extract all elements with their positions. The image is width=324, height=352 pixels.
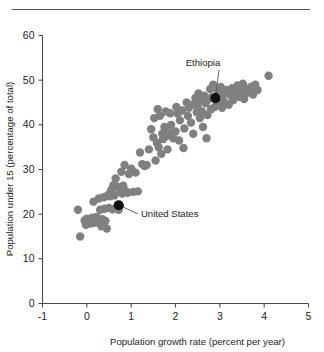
data-point [151, 156, 159, 164]
data-point [187, 118, 195, 126]
data-point [179, 144, 187, 152]
data-point [253, 86, 261, 94]
data-point [101, 217, 109, 225]
figure-scatter-plot: -10123450102030405060Population growth r… [0, 0, 324, 352]
data-point [131, 168, 139, 176]
data-point [134, 187, 142, 195]
annotation-label-0: Ethiopia [186, 57, 221, 68]
data-point [202, 134, 210, 142]
data-point [142, 161, 150, 169]
x-tick-label-1: 0 [84, 310, 90, 322]
x-tick-label-0: -1 [38, 310, 47, 322]
data-point [136, 148, 144, 156]
annotation-highlight-point-1 [114, 200, 124, 210]
y-tick-label-0: 0 [29, 297, 35, 309]
y-axis-title: Population under 15 (percentage of total… [4, 82, 15, 256]
data-point [180, 124, 188, 132]
x-tick-label-3: 2 [173, 310, 179, 322]
y-tick-label-3: 30 [23, 163, 35, 175]
data-point [76, 232, 84, 240]
scatter-plot-canvas: -10123450102030405060Population growth r… [0, 0, 324, 352]
data-point [147, 125, 155, 133]
y-tick-label-1: 10 [23, 252, 35, 264]
y-tick-label-2: 20 [23, 208, 35, 220]
annotation-label-1: United States [141, 208, 199, 219]
y-tick-label-4: 40 [23, 118, 35, 130]
x-tick-label-2: 1 [128, 310, 134, 322]
data-point [199, 123, 207, 131]
data-point [171, 127, 179, 135]
data-point [175, 136, 183, 144]
data-point [111, 174, 119, 182]
y-tick-label-6: 60 [23, 29, 35, 41]
data-point [166, 109, 174, 117]
y-tick-label-5: 50 [23, 74, 35, 86]
data-point [189, 130, 197, 138]
data-point [264, 72, 272, 80]
data-point [176, 116, 184, 124]
x-tick-label-4: 3 [217, 310, 223, 322]
x-tick-label-6: 5 [306, 310, 312, 322]
data-point [145, 145, 153, 153]
annotation-highlight-point-0 [210, 93, 220, 103]
x-axis-title: Population growth rate (percent per year… [110, 336, 285, 347]
x-tick-label-5: 4 [261, 310, 267, 322]
data-point [103, 224, 111, 232]
data-point [163, 145, 171, 153]
data-point [74, 206, 82, 214]
